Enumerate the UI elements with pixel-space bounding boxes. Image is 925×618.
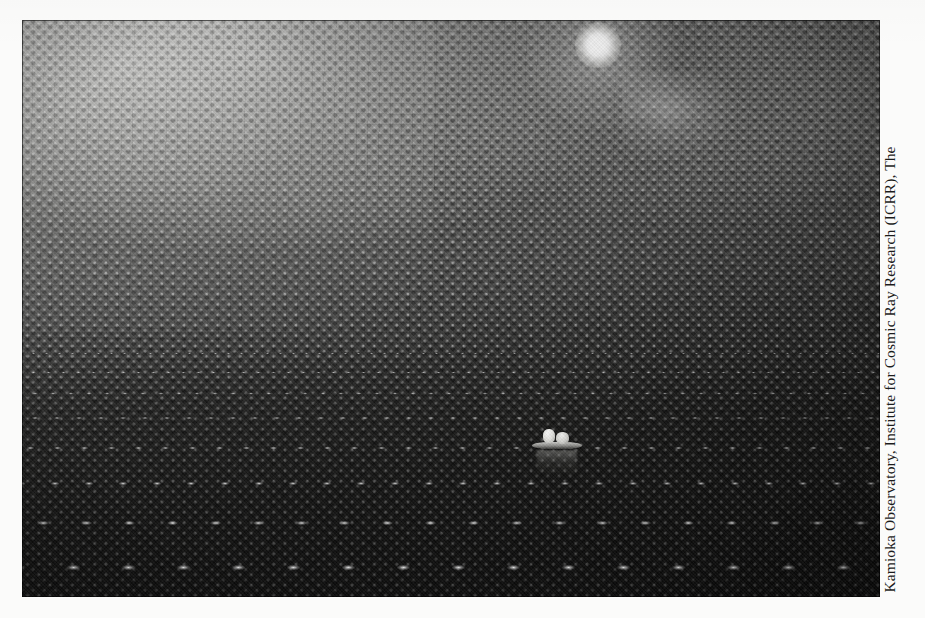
photo-credit-text: Kamioka Observatory, Institute for Cosmi… — [882, 146, 898, 592]
floor-glint-row — [22, 348, 880, 361]
floor-glint-row — [22, 506, 880, 539]
detector-interior-photograph — [22, 20, 880, 597]
dome-curvature-shading — [22, 20, 880, 597]
halftone-print-texture — [22, 20, 880, 597]
pmt-array-wall-offset — [22, 20, 880, 597]
illuminated-wall-region — [22, 20, 434, 332]
inflatable-boat-with-workers — [528, 425, 586, 455]
lamp-wall-reflection — [622, 72, 742, 164]
floor-glint-row — [22, 409, 880, 429]
photo-tonal-base — [22, 20, 880, 597]
pmt-array-floor — [22, 343, 880, 597]
floor-glint-row — [22, 470, 880, 498]
pmt-array-wall-primary — [22, 20, 880, 597]
photo-border — [22, 20, 880, 597]
boat-hull — [532, 442, 582, 449]
worker-figure-left — [543, 429, 555, 443]
boat-water-reflection — [537, 450, 577, 476]
lamp-halo — [527, 20, 677, 128]
floor-glint-row — [22, 386, 880, 404]
pmt-support-frame — [22, 20, 880, 597]
floor-glint-row — [22, 546, 880, 587]
photo-credit: Kamioka Observatory, Institute for Cosmi… — [884, 0, 910, 600]
floor-glint-row — [22, 366, 880, 381]
scanned-figure-page: Kamioka Observatory, Institute for Cosmi… — [0, 0, 925, 618]
photo-vignette — [22, 20, 880, 597]
worker-figure-right — [556, 432, 569, 444]
work-lamp-light — [575, 22, 621, 68]
floor-glint-row — [22, 437, 880, 460]
